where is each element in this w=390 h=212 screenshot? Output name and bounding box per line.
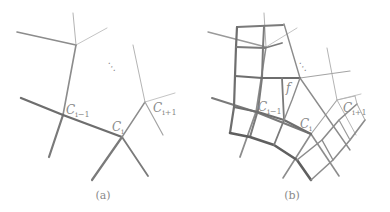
grid-line (337, 96, 355, 100)
grid-line (237, 25, 283, 27)
c-prev-label: Ci−1 (258, 100, 282, 116)
c-cur-label: Ci (300, 117, 312, 133)
edge (76, 28, 107, 45)
edge (122, 137, 148, 176)
edge (311, 100, 337, 134)
edge (283, 134, 311, 178)
caption-b: (b) (284, 189, 300, 202)
edge (133, 45, 145, 102)
edge (311, 134, 339, 176)
grid-line (230, 27, 237, 133)
figure: ⋱ Ci−1 Ci Ci+1 (a) (0, 0, 390, 212)
c-prev-label: Ci−1 (66, 103, 90, 119)
edge (266, 28, 297, 47)
face-label: f (285, 81, 293, 95)
c-next-label: Ci+1 (153, 101, 177, 117)
edge (73, 13, 76, 45)
edge (92, 137, 122, 180)
panel-a: ⋱ Ci−1 Ci Ci+1 (a) (17, 13, 177, 202)
edge (300, 71, 350, 78)
edge (49, 115, 63, 157)
edge (21, 98, 63, 115)
panel-b: ⋱ f Ci−1 Ci Ci+1 (b) (208, 13, 367, 202)
grid-line (230, 133, 311, 180)
c-cur-label: Ci (112, 120, 124, 136)
c-next-label: Ci+1 (343, 101, 367, 117)
ellipsis-label: ⋱ (106, 61, 116, 72)
caption-a: (a) (95, 189, 110, 202)
ellipsis-label: ⋱ (297, 61, 307, 72)
edge (17, 32, 76, 45)
grid-line (311, 120, 365, 180)
grid-line (355, 96, 357, 104)
grid-line (322, 140, 333, 160)
edge (122, 102, 145, 137)
grid-line (235, 76, 300, 78)
